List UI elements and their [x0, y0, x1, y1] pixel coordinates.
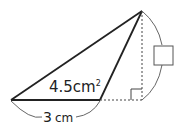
height-brace-arc-bottom — [142, 65, 162, 100]
area-label: 4.5cm2 — [49, 78, 101, 96]
height-answer-box[interactable] — [154, 46, 173, 65]
base-brace-arc-right — [76, 101, 100, 117]
height-brace-arc-top — [142, 11, 162, 45]
right-angle-marker — [131, 89, 142, 100]
base-label: 3cm — [43, 109, 73, 125]
base-brace-arc — [11, 101, 42, 117]
triangle-diagram: 4.5cm2 3cm — [0, 0, 182, 129]
